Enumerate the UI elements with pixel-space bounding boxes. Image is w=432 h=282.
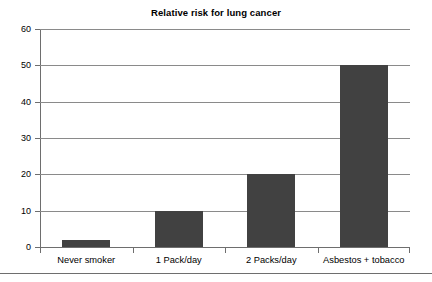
bar [247,174,295,247]
x-tick-mark [40,248,41,253]
y-tick-label-0: 0 [3,242,31,252]
x-tick-label: 2 Packs/day [225,254,318,266]
bottom-divider-rule [0,273,432,274]
y-tick-label-40: 40 [3,97,31,107]
y-tick-label-30: 30 [3,133,31,143]
x-tick-mark [133,248,134,253]
x-tick-label: 1 Pack/day [133,254,226,266]
bar [155,211,203,247]
chart-figure: Relative risk for lung cancer 0102030405… [0,0,432,282]
x-tick-label: Asbestos + tobacco [318,254,411,266]
y-tick-label-20: 20 [3,169,31,179]
plot-area [40,29,410,247]
bar [340,65,388,247]
gridline-60 [40,29,410,30]
bar [62,240,110,247]
x-tick-mark [225,248,226,253]
x-tick-label: Never smoker [40,254,133,266]
y-tick-label-60: 60 [3,24,31,34]
chart-title: Relative risk for lung cancer [0,7,432,19]
y-tick-label-50: 50 [3,60,31,70]
x-tick-mark [409,248,410,253]
x-tick-mark [318,248,319,253]
y-tick-label-10: 10 [3,206,31,216]
